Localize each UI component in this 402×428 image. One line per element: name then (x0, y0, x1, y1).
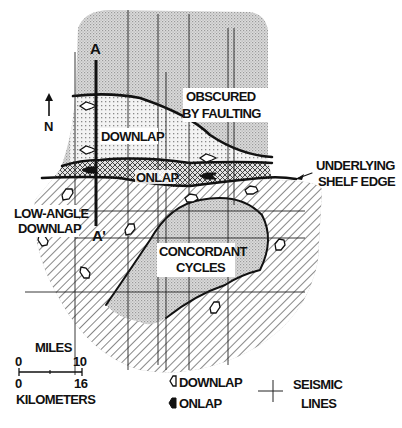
low-angle-label-line2: DOWNLAP (18, 221, 82, 236)
scale-bar: MILES 0 10 0 16 KILOMETERS (15, 340, 96, 407)
north-arrow-icon (45, 93, 53, 101)
north-arrow: N (44, 93, 53, 134)
section-end-label: A' (92, 227, 105, 244)
shelf-edge-label-line1: UNDERLYING (316, 158, 395, 173)
legend-onlap-icon (169, 398, 176, 408)
scale-km-min: 0 (15, 376, 22, 391)
concordant-label-line1: CONCORDANT (159, 244, 248, 259)
scale-miles-label: MILES (35, 340, 73, 355)
concordant-label-line2: CYCLES (176, 260, 226, 275)
legend-seismic-line1: SEISMIC (293, 377, 343, 392)
seismic-facies-map: A A' N OBSCURED BY FAULTING DOWNLAP ONLA… (0, 0, 402, 428)
scale-miles-min: 0 (15, 354, 22, 369)
legend-downlap-icon (170, 376, 176, 386)
legend-onlap-label: ONLAP (179, 396, 222, 411)
shelf-edge-label-line2: SHELF EDGE (318, 174, 396, 189)
obscured-label-line1: OBSCURED (186, 89, 256, 104)
north-label: N (44, 119, 53, 134)
scale-km-label: KILOMETERS (16, 392, 96, 407)
section-start-label: A (90, 40, 101, 57)
obscured-label-line2: BY FAULTING (182, 106, 261, 121)
scale-miles-max: 10 (73, 354, 87, 369)
legend-seismic-line2: LINES (301, 396, 337, 411)
scale-km-max: 16 (74, 376, 88, 391)
onlap-region-label: ONLAP (136, 170, 179, 185)
legend-downlap-label: DOWNLAP (179, 375, 243, 390)
legend: DOWNLAP ONLAP SEISMIC LINES (169, 375, 343, 411)
low-angle-label-line1: LOW-ANGLE (14, 206, 89, 221)
downlap-region-label: DOWNLAP (101, 129, 165, 144)
